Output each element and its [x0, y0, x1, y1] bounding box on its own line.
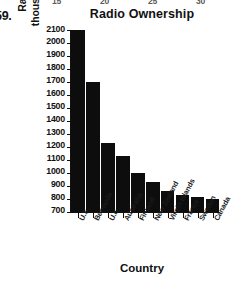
y-axis-tick-label: 2100: [46, 24, 65, 34]
clipped-tick-label: 30: [196, 0, 205, 6]
y-axis-tick-label: 1000: [46, 166, 65, 176]
y-axis-tick-label: 1500: [46, 101, 65, 111]
chart-title: Radio Ownership: [62, 7, 222, 21]
clipped-tick-label: 15: [52, 0, 61, 6]
bar: [71, 30, 84, 212]
y-axis-tick-label: 1900: [46, 49, 65, 59]
bar: [116, 156, 129, 212]
y-axis-tick-label: 900: [51, 179, 65, 189]
y-axis-tick-label: 2000: [46, 36, 65, 46]
y-axis-tick-label: 700: [51, 205, 65, 215]
x-axis-category-labels: U.S.BermudaU.K.AustraliaFinlandNew Zeala…: [70, 218, 222, 263]
y-axis-title-line1: Radios per: [16, 0, 29, 55]
y-axis-title-line2: thousand people: [29, 0, 42, 55]
bar: [86, 82, 99, 212]
y-axis-tick-label: 1400: [46, 114, 65, 124]
bar-series: [71, 30, 219, 212]
x-axis-title: Country: [62, 262, 222, 274]
question-number: 59.: [0, 9, 11, 23]
y-axis-tick-label: 800: [51, 192, 65, 202]
y-axis-tick-label: 1600: [46, 88, 65, 98]
y-axis-title: Radios per thousand people: [16, 0, 42, 55]
y-axis-tick-label: 1700: [46, 75, 65, 85]
clipped-tick-label: 20: [100, 0, 109, 6]
plot-area: 2100200019001800170016001500140013001200…: [70, 30, 222, 213]
y-axis-tick-label: 1300: [46, 127, 65, 137]
y-axis-tick-label: 1800: [46, 62, 65, 72]
clipped-tick-label: 25: [148, 0, 157, 6]
y-axis-tick-label: 1200: [46, 140, 65, 150]
y-axis-tick-label: 1100: [47, 153, 65, 163]
